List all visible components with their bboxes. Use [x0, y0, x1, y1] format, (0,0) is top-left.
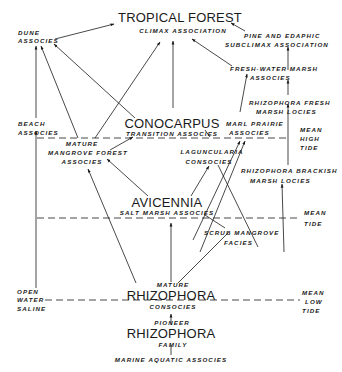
saline-label: SALINE — [17, 306, 46, 312]
mean-high-tide-label-2: HIGH — [300, 136, 320, 142]
scrub-mangrove-label: SCRUB MANGROVE — [204, 230, 280, 236]
mature-mangrove-label-2: MANGROVE FOREST — [48, 150, 128, 156]
rhizophora-fresh-locies-label: MARSH LOCIES — [256, 109, 317, 115]
rhizophora-consocies-label: CONSOCIES — [149, 304, 196, 310]
mature-rhizophora-title: RHIZOPHORA — [127, 289, 216, 302]
mean-low-tide-label-3: TIDE — [302, 308, 321, 314]
subclimax-association-label: SUBCLIMAX ASSOCIATION — [225, 42, 329, 48]
scrub-facies-label: FACIES — [224, 240, 253, 246]
rhizophora-brackish-label: RHIZOPHORA BRACKISH — [241, 168, 338, 174]
rhizophora-brackish-locies-label: MARSH LOCIES — [250, 178, 311, 184]
open-label: OPEN — [17, 289, 39, 295]
tropical-forest-title: TROPICAL FOREST — [118, 11, 242, 24]
rhizophora-family-label: FAMILY — [159, 342, 188, 348]
mature-mangrove-label-3: ASSOCIES — [62, 159, 103, 165]
mean-low-tide-label-2: LOW — [305, 299, 323, 305]
transition-associes-label: TRANSITION ASSOCIES — [126, 131, 218, 137]
salt-marsh-associes-label: SALT MARSH ASSOCIES — [120, 210, 214, 216]
mean-tide-label-1: MEAN — [304, 210, 327, 216]
mean-low-tide-label-1: MEAN — [302, 290, 325, 296]
mean-tide-label-2: TIDE — [304, 221, 323, 227]
beach-label: BEACH — [18, 121, 46, 127]
marl-prairie-label: MARL PRAIRIE — [226, 121, 284, 127]
mature-mangrove-label-1: MATURE — [66, 141, 99, 147]
water-label: WATER — [17, 297, 44, 303]
climax-association-label: CLIMAX ASSOCIATION — [139, 28, 227, 34]
connector-lines — [0, 0, 342, 372]
rhizophora-fresh-label: RHIZOPHORA FRESH — [249, 100, 331, 106]
pioneer-rhizophora-title: RHIZOPHORA — [127, 327, 216, 340]
mean-high-tide-label-1: MEAN — [300, 127, 323, 133]
pine-edaphic-label: PINE AND EDAPHIC — [244, 33, 321, 39]
marine-aquatic-associes-label: MARINE AQUATIC ASSOCIES — [115, 357, 227, 363]
conocarpus-title: CONOCARPUS — [124, 117, 219, 130]
avicennia-title: AVICENNIA — [132, 196, 203, 209]
dune-label: DUNE — [18, 30, 40, 36]
fresh-water-associes-label: ASSOCIES — [250, 75, 291, 81]
succession-diagram: TROPICAL FOREST CLIMAX ASSOCIATION PINE … — [0, 0, 342, 372]
mean-high-tide-label-3: TIDE — [300, 145, 319, 151]
laguncularia-consocies-label: CONSOCIES — [185, 159, 232, 165]
marl-prairie-associes-label: ASSOCIES — [229, 130, 270, 136]
laguncularia-label: LAGUNCULARIA — [180, 149, 243, 155]
dune-associes-label: ASSOCIES — [18, 38, 59, 44]
fresh-water-marsh-label: FRESH-WATER MARSH — [230, 66, 318, 72]
beach-associes-label: ASSOCIES — [18, 130, 59, 136]
